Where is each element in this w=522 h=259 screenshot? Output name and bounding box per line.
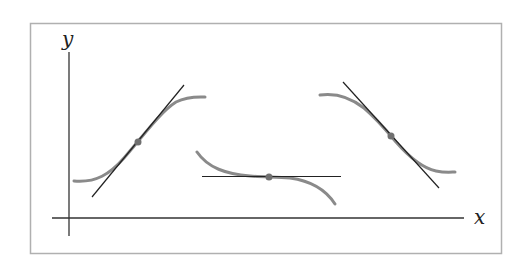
- tangent-lines-diagram: y x: [0, 0, 522, 259]
- increasing-tangent-point: [135, 139, 142, 146]
- stationary-tangent-point: [266, 174, 273, 181]
- decreasing-tangent-point: [388, 133, 395, 140]
- y-axis-label: y: [61, 27, 74, 51]
- figure-frame: [31, 24, 502, 254]
- panel-increasing: [74, 85, 205, 197]
- panel-decreasing: [320, 82, 455, 188]
- x-axis-label: x: [474, 205, 485, 229]
- decreasing-curve: [320, 95, 455, 173]
- panel-stationary: [197, 152, 341, 204]
